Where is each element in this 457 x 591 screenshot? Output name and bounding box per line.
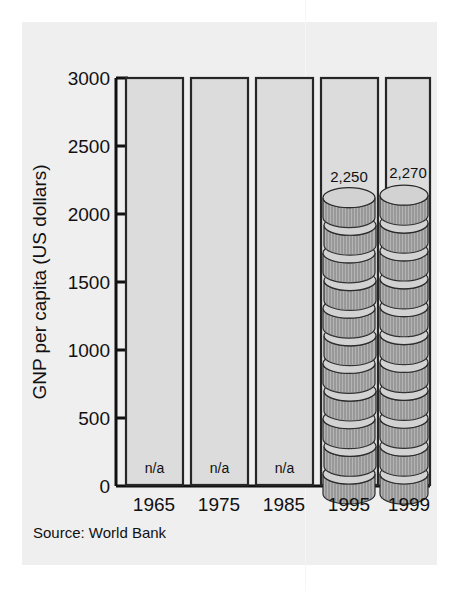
y-tick-label-1500: 1500: [68, 272, 110, 293]
bar-group-1985[interactable]: n/a: [256, 78, 313, 485]
value-label-1999: 2,270: [389, 164, 427, 181]
y-tick-label-2500: 2500: [68, 136, 110, 157]
bar-label-1975: n/a: [210, 460, 230, 476]
bar-1985[interactable]: [256, 78, 313, 485]
source-note: Source: World Bank: [33, 524, 167, 541]
coin-stack-1999: [380, 185, 428, 504]
category-label-1995: 1995: [328, 494, 370, 515]
y-axis: 3000 2500 2000 1500 1000 500 0: [68, 68, 128, 497]
category-label-1965: 1965: [133, 494, 175, 515]
bar-1975[interactable]: [191, 78, 248, 485]
bar-group-1975[interactable]: n/a: [191, 78, 248, 485]
bar-label-1985: n/a: [275, 460, 295, 476]
category-label-1985: 1985: [263, 494, 305, 515]
value-label-1995: 2,250: [330, 168, 368, 185]
coin: [380, 185, 428, 225]
category-label-1975: 1975: [198, 494, 240, 515]
y-axis-title: GNP per capita (US dollars): [29, 164, 50, 399]
y-tick-label-1000: 1000: [68, 340, 110, 361]
y-tick-label-0: 0: [99, 476, 110, 497]
bar-1965[interactable]: [126, 78, 183, 485]
bar-label-1965: n/a: [145, 460, 165, 476]
gnp-per-capita-bar-chart: GNP per capita (US dollars) 3000 2500 20…: [0, 0, 457, 591]
y-tick-label-500: 500: [78, 408, 110, 429]
category-label-1999: 1999: [388, 494, 430, 515]
y-tick-label-2000: 2000: [68, 204, 110, 225]
y-tick-label-3000: 3000: [68, 68, 110, 89]
y-axis-title-group: GNP per capita (US dollars): [29, 164, 50, 399]
chart-figure: GNP per capita (US dollars) 3000 2500 20…: [0, 0, 457, 591]
coin-stack-1995: [323, 188, 376, 504]
bar-group-1965[interactable]: n/a: [126, 78, 183, 485]
coin: [323, 188, 375, 228]
